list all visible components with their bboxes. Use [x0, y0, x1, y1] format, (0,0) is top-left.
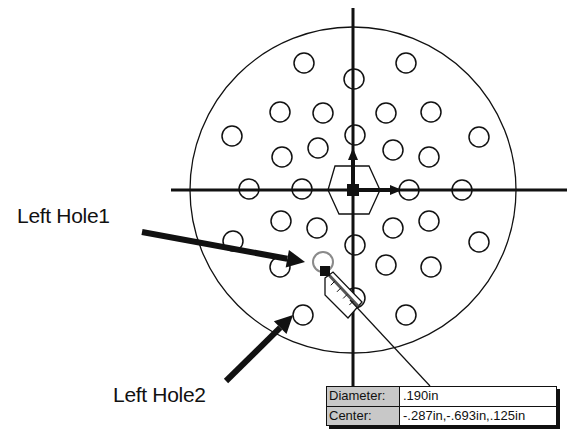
diameter-row: Diameter: .190in — [327, 387, 556, 406]
hole — [345, 235, 365, 255]
hole — [313, 103, 333, 123]
center-value: -.287in,-.693in,.125in — [400, 407, 556, 425]
center-row: Center: -.287in,-.693in,.125in — [327, 406, 556, 425]
hole — [419, 147, 439, 167]
hole — [345, 125, 365, 145]
diameter-value: .190in — [400, 387, 556, 406]
hole — [271, 211, 291, 231]
callout-left-hole-1-arrow-arrowhead-icon — [286, 250, 305, 268]
leader-line — [350, 300, 430, 386]
hole — [308, 138, 328, 158]
hole — [383, 140, 403, 160]
hole-info-tooltip: Diameter: .190in Center: -.287in,-.693in… — [326, 386, 557, 426]
hole — [222, 126, 242, 146]
hole — [293, 305, 313, 325]
hole — [421, 102, 441, 122]
hole — [294, 53, 314, 73]
callout-left-hole-1-label: Left Hole1 — [17, 204, 110, 228]
origin-point — [347, 184, 359, 196]
hole — [419, 211, 439, 231]
hole — [272, 147, 292, 167]
callout-left-hole-2-label: Left Hole2 — [113, 383, 206, 407]
hole — [396, 305, 416, 325]
callout-left-hole-1-arrow-shaft — [142, 232, 287, 259]
hole — [469, 127, 489, 147]
center-label: Center: — [327, 407, 400, 425]
hole — [469, 232, 489, 252]
callout-left-hole-2-arrow-shaft — [226, 328, 280, 381]
hole — [376, 255, 396, 275]
diameter-label: Diameter: — [327, 387, 400, 406]
hole — [376, 103, 396, 123]
hole — [421, 257, 441, 277]
measure-point — [320, 266, 330, 276]
y-arrowhead-icon — [348, 148, 358, 160]
hole — [307, 218, 327, 238]
hole — [396, 53, 416, 73]
hole — [383, 218, 403, 238]
hole — [270, 102, 290, 122]
